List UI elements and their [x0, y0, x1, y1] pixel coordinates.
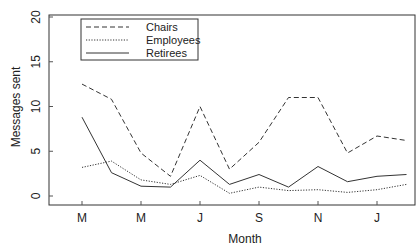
y-tick-label: 15 — [29, 55, 43, 69]
series-line-retirees — [82, 117, 407, 187]
series-lines — [82, 84, 407, 193]
x-tick-label: M — [136, 211, 146, 225]
y-tick-label: 0 — [29, 192, 43, 199]
x-axis-title: Month — [228, 232, 261, 246]
y-axis-title: Messages sent — [9, 66, 23, 147]
y-tick-label: 5 — [29, 148, 43, 155]
line-chart: 05101520 MMJSNJ ChairsEmployeesRetirees … — [0, 0, 419, 252]
series-line-employees — [82, 161, 407, 193]
x-tick-label: N — [314, 211, 323, 225]
series-line-chairs — [82, 84, 407, 176]
x-tick-label: J — [374, 211, 380, 225]
legend: ChairsEmployeesRetirees — [81, 19, 201, 60]
legend-label-employees: Employees — [146, 34, 201, 46]
y-tick-label: 20 — [29, 10, 43, 24]
legend-label-retirees: Retirees — [146, 47, 187, 59]
x-tick-label: M — [77, 211, 87, 225]
legend-label-chairs: Chairs — [146, 21, 178, 33]
x-tick-label: J — [197, 211, 203, 225]
y-tick-label: 10 — [29, 100, 43, 114]
x-tick-label: S — [255, 211, 263, 225]
